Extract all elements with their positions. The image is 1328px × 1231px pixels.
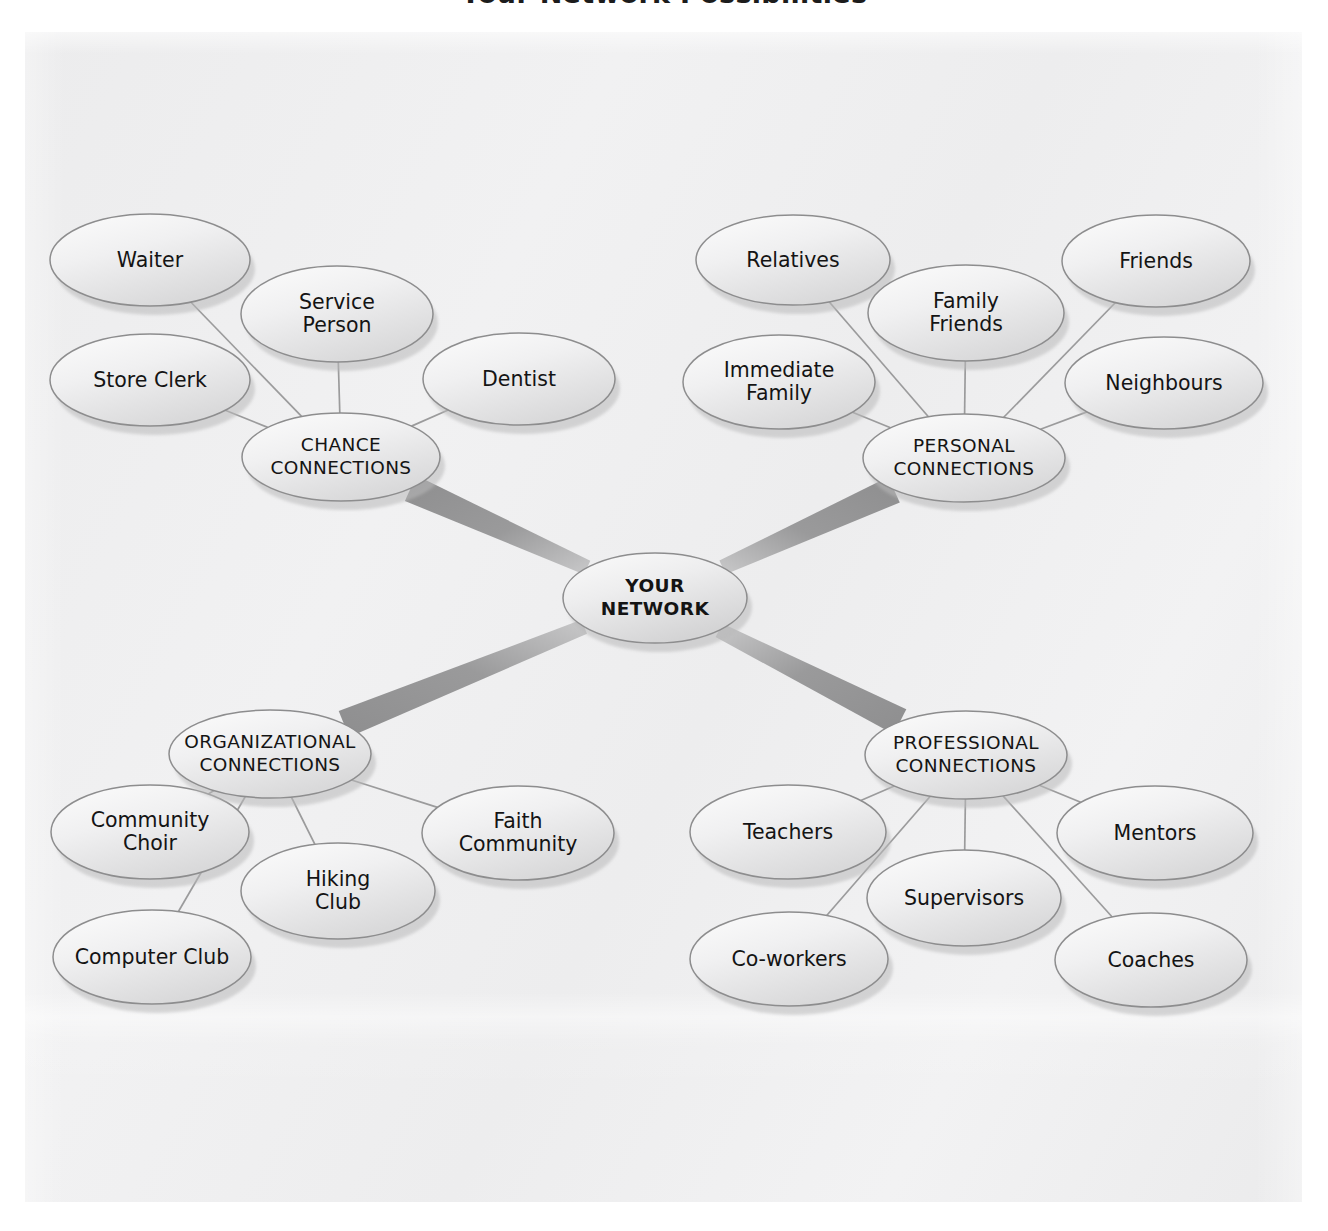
node-label: Teachers bbox=[742, 820, 833, 844]
connector-personal-neighbours bbox=[1041, 412, 1088, 429]
node-label: Relatives bbox=[746, 248, 839, 272]
node-core[interactable]: YOURNETWORK bbox=[563, 553, 752, 652]
node-label: Dentist bbox=[482, 367, 556, 391]
primary-connector-chance bbox=[405, 476, 590, 575]
connector-organizational-faith-community bbox=[352, 780, 438, 807]
node-waiter[interactable]: Waiter bbox=[50, 214, 255, 315]
node-family-friends[interactable]: FamilyFriends bbox=[868, 265, 1069, 370]
page-title: Your Network Possibilities bbox=[0, 0, 1328, 9]
node-immediate-family[interactable]: ImmediateFamily bbox=[683, 335, 880, 438]
node-faith-community[interactable]: FaithCommunity bbox=[422, 786, 619, 889]
node-label: Coaches bbox=[1108, 948, 1195, 972]
node-label: ServicePerson bbox=[299, 290, 375, 337]
node-service-person[interactable]: ServicePerson bbox=[241, 266, 438, 371]
node-computer-club[interactable]: Computer Club bbox=[53, 910, 256, 1013]
node-teachers[interactable]: Teachers bbox=[690, 785, 891, 888]
node-store-clerk[interactable]: Store Clerk bbox=[50, 334, 255, 435]
node-label: Waiter bbox=[117, 248, 184, 272]
primary-connector-professional bbox=[716, 624, 907, 735]
node-co-workers[interactable]: Co-workers bbox=[690, 912, 893, 1015]
node-label: Supervisors bbox=[904, 886, 1024, 910]
node-friends[interactable]: Friends bbox=[1062, 215, 1255, 316]
node-label: Co-workers bbox=[731, 947, 846, 971]
node-coaches[interactable]: Coaches bbox=[1055, 913, 1252, 1016]
node-organizational[interactable]: ORGANIZATIONALCONNECTIONS bbox=[169, 710, 376, 807]
node-dentist[interactable]: Dentist bbox=[423, 333, 620, 434]
node-chance[interactable]: CHANCECONNECTIONS bbox=[242, 413, 445, 510]
node-label: Store Clerk bbox=[93, 368, 207, 392]
node-neighbours[interactable]: Neighbours bbox=[1065, 337, 1268, 438]
node-label: HikingClub bbox=[306, 867, 371, 914]
node-relatives[interactable]: Relatives bbox=[696, 215, 895, 314]
node-mentors[interactable]: Mentors bbox=[1057, 786, 1258, 889]
network-diagram: WaiterServicePersonStore ClerkDentistRel… bbox=[25, 32, 1302, 1202]
node-hiking-club[interactable]: HikingClub bbox=[241, 843, 440, 948]
node-label: Mentors bbox=[1114, 821, 1197, 845]
node-label: FamilyFriends bbox=[929, 289, 1003, 336]
node-label: Friends bbox=[1119, 249, 1193, 273]
node-supervisors[interactable]: Supervisors bbox=[867, 850, 1066, 955]
node-label: Computer Club bbox=[75, 945, 229, 969]
node-professional[interactable]: PROFESSIONALCONNECTIONS bbox=[865, 711, 1072, 808]
primary-connector-organizational bbox=[339, 620, 587, 737]
primary-connector-personal bbox=[719, 477, 899, 574]
node-personal[interactable]: PERSONALCONNECTIONS bbox=[863, 414, 1070, 511]
diagram-canvas: WaiterServicePersonStore ClerkDentistRel… bbox=[25, 32, 1302, 1202]
node-label: Neighbours bbox=[1105, 371, 1222, 395]
